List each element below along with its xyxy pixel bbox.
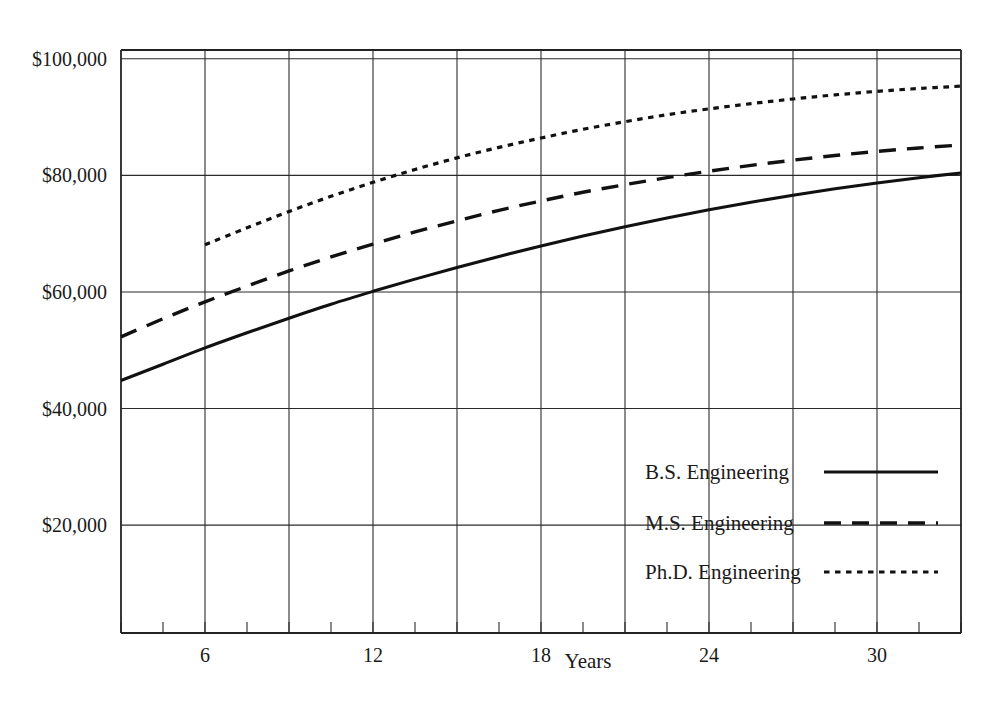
x-axis-tick-marks <box>121 622 961 633</box>
x-tick-label-30: 30 <box>867 644 887 666</box>
x-tick-label-18: 18 <box>531 644 551 666</box>
chart-background <box>0 0 993 710</box>
y-tick-label-100000: $100,000 <box>32 48 107 70</box>
y-tick-label-60000: $60,000 <box>42 281 107 303</box>
salary-line-chart: $20,000$40,000$60,000$80,000$100,000 612… <box>0 0 993 710</box>
legend-label-solid: B.S. Engineering <box>645 460 790 484</box>
x-tick-label-12: 12 <box>363 644 383 666</box>
legend-label-dotted: Ph.D. Engineering <box>645 560 801 584</box>
y-tick-label-40000: $40,000 <box>42 398 107 420</box>
legend-label-dashed: M.S. Engineering <box>645 511 794 535</box>
x-tick-label-24: 24 <box>699 644 719 666</box>
x-axis-title: Years <box>565 649 612 673</box>
y-tick-label-80000: $80,000 <box>42 164 107 186</box>
x-tick-label-6: 6 <box>200 644 210 666</box>
chart-container: $20,000$40,000$60,000$80,000$100,000 612… <box>0 0 993 710</box>
y-tick-label-20000: $20,000 <box>42 514 107 536</box>
